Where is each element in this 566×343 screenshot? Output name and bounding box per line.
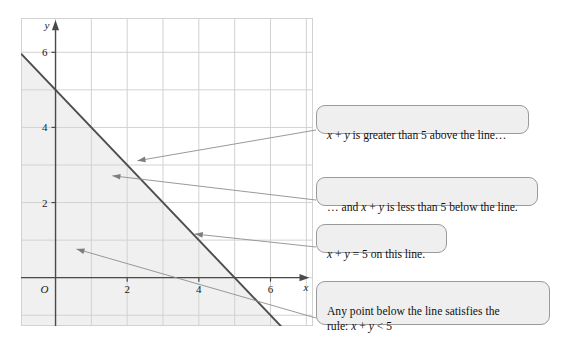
- callout-4-text: Any point below the line satisfies theru…: [327, 304, 540, 335]
- svg-text:O: O: [41, 283, 49, 295]
- svg-text:4: 4: [196, 283, 202, 295]
- callout-2-text: … and x + y is less than 5 below the lin…: [327, 200, 528, 216]
- svg-text:y: y: [44, 19, 50, 31]
- annotation-callout-above-line: x + y is greater than 5 above the line…: [316, 105, 529, 134]
- coordinate-plane: 246246Oxy: [21, 18, 313, 326]
- plot-area: 246246Oxy: [21, 18, 313, 326]
- inequality-graph-figure: 246246Oxy x + y is greater than 5 above …: [0, 0, 566, 343]
- svg-text:6: 6: [268, 283, 274, 295]
- annotation-callout-below-line: … and x + y is less than 5 below the lin…: [316, 177, 538, 206]
- svg-text:x: x: [302, 281, 308, 293]
- svg-text:2: 2: [124, 283, 130, 295]
- callout-3-text: x + y = 5 on this line.: [327, 247, 437, 263]
- svg-text:6: 6: [42, 46, 48, 58]
- annotation-callout-any-point: Any point below the line satisfies theru…: [316, 281, 550, 325]
- svg-text:4: 4: [42, 121, 48, 133]
- annotation-callout-on-line: x + y = 5 on this line.: [316, 224, 447, 253]
- svg-text:2: 2: [42, 197, 48, 209]
- callout-1-text: x + y is greater than 5 above the line…: [327, 128, 519, 144]
